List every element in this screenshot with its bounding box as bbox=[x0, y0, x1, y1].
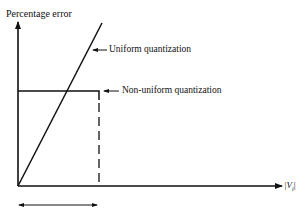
x-axis-label: |Vi| bbox=[284, 181, 295, 192]
uniform-quantization-line bbox=[18, 23, 102, 186]
y-axis-label: Percentage error bbox=[6, 9, 72, 19]
x-axis-label-main: |V bbox=[284, 180, 292, 190]
x-axis-label-end: | bbox=[294, 180, 296, 190]
nonuniform-quantization-label: Non-uniform quantization bbox=[122, 86, 221, 96]
uniform-quantization-label: Uniform quantization bbox=[109, 45, 191, 55]
nonuniform-quantization-line bbox=[18, 91, 99, 100]
diagram-canvas bbox=[0, 0, 297, 216]
